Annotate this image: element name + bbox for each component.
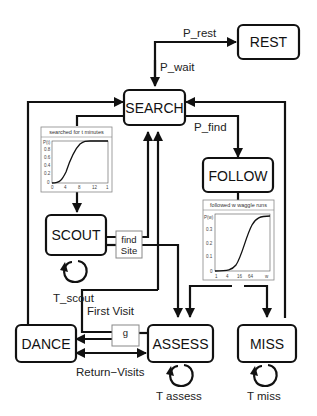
svg-text:0.4: 0.4 (44, 163, 51, 168)
label-t-miss: T miss (247, 390, 281, 402)
svg-text:ASSESS: ASSESS (152, 336, 208, 352)
label-p-rest: P_rest (183, 27, 217, 39)
svg-text:64: 64 (248, 274, 254, 279)
edge-chart2-miss (244, 286, 267, 317)
svg-text:followed w waggle runs: followed w waggle runs (210, 202, 267, 208)
svg-text:SEARCH: SEARCH (125, 100, 183, 116)
node-miss: MISS (238, 325, 296, 362)
label-t-scout: T_scout (53, 292, 95, 304)
svg-text:find: find (121, 234, 136, 245)
svg-text:P(t): P(t) (43, 140, 51, 145)
svg-text:REST: REST (250, 34, 288, 50)
node-rest: REST (238, 25, 299, 59)
svg-text:FOLLOW: FOLLOW (208, 168, 268, 184)
chart-followed-waggle: followed w waggle runs P(w) 0.3 0.2 0.1 … (203, 200, 274, 280)
svg-text:0.3: 0.3 (206, 227, 213, 232)
svg-text:0.2: 0.2 (206, 241, 213, 246)
find-site-gate: find Site (116, 231, 142, 258)
svg-text:Site: Site (121, 245, 137, 256)
node-scout: SCOUT (46, 215, 106, 255)
label-t-assess: T assess (156, 390, 202, 402)
state-diagram: P_rest P_wait P_find T_scout First Visit… (0, 0, 317, 416)
g-gate: g (112, 325, 139, 346)
svg-text:0.1: 0.1 (206, 254, 213, 259)
svg-text:0.8: 0.8 (44, 147, 51, 152)
svg-text:MISS: MISS (250, 336, 284, 352)
svg-text:0.2: 0.2 (44, 171, 51, 176)
svg-text:0.6: 0.6 (44, 155, 51, 160)
label-return-visits: Return−Visits (76, 366, 145, 378)
node-assess: ASSESS (148, 325, 213, 362)
svg-text:12: 12 (92, 185, 98, 190)
node-follow: FOLLOW (203, 158, 273, 192)
svg-text:g: g (123, 327, 128, 338)
svg-text:searched for t minutes: searched for t minutes (49, 129, 104, 135)
svg-text:DANCE: DANCE (21, 336, 70, 352)
node-dance: DANCE (16, 325, 76, 362)
node-search: SEARCH (124, 90, 185, 125)
svg-text:P(w): P(w) (204, 215, 214, 220)
label-p-find: P_find (194, 121, 227, 133)
chart-searched-time: searched for t minutes P(t) 0.8 0.6 0.4 … (41, 127, 112, 192)
edge-findsite-assess (142, 245, 178, 317)
svg-text:16: 16 (237, 274, 243, 279)
label-first-visit: First Visit (87, 305, 135, 317)
edge-chart2-assess (190, 286, 232, 317)
edge-search-scout (77, 116, 125, 126)
svg-text:SCOUT: SCOUT (52, 227, 101, 243)
label-p-wait: P_wait (160, 61, 195, 73)
